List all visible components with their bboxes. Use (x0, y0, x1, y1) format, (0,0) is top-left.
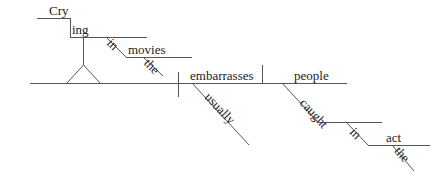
word-act: act (386, 131, 401, 144)
pedestal-right-leg (84, 65, 101, 83)
word-cry: Cry (49, 4, 69, 17)
pedestal-left-leg (67, 65, 84, 83)
word-embarrasses: embarrasses (190, 69, 254, 82)
word-ing: ing (72, 23, 89, 36)
diagram-lines (0, 0, 436, 180)
word-people: people (294, 69, 329, 82)
sentence-diagram: Cry ing in movies the embarrasses usuall… (0, 0, 436, 180)
word-movies: movies (128, 43, 166, 56)
